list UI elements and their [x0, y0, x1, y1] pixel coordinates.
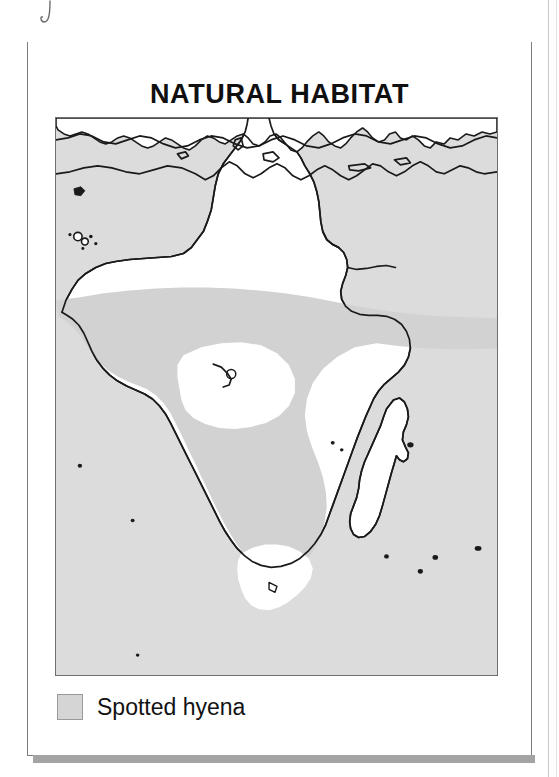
island-mauritius — [432, 555, 438, 560]
legend-swatch-spotted-hyena — [57, 694, 83, 720]
island-reunion — [418, 569, 423, 574]
island-dot-indian-a — [331, 441, 335, 445]
panel-bottom-bar — [33, 755, 535, 763]
island-cape-verde-b — [81, 238, 88, 245]
legend-label-spotted-hyena: Spotted hyena — [97, 696, 245, 719]
island-dot-d — [81, 247, 84, 250]
africa-distribution-map — [56, 118, 497, 675]
island-comoros — [384, 554, 389, 558]
island-dot-indian-b — [340, 448, 344, 451]
island-dot-atlantic-mid — [78, 464, 82, 468]
scan-artifact-edge-line — [548, 0, 549, 777]
scan-artifact-edge-line-secondary — [556, 0, 557, 777]
island-socotra — [475, 546, 482, 551]
island-dot-atlantic-south — [136, 653, 140, 656]
island-cape-verde-a — [74, 232, 82, 240]
island-dot-a — [68, 233, 71, 236]
island-dot-atlantic-low — [131, 519, 135, 523]
map-legend: Spotted hyena — [57, 694, 245, 720]
range-gap-congo-basin — [177, 342, 294, 429]
island-dot-b — [89, 235, 93, 239]
island-seychelles — [407, 442, 413, 447]
island-dot-c — [94, 242, 97, 245]
page-title: NATURAL HABITAT — [27, 79, 532, 110]
map-frame — [55, 117, 498, 676]
scan-artifact-pen-mark — [36, 0, 58, 26]
